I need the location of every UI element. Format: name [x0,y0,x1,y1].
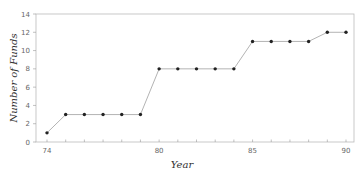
x-tick-label: 85 [248,147,257,155]
y-tick-label: 6 [26,84,31,92]
y-tick-label: 14 [21,11,30,19]
line-chart: 02468101214 74808590 Year Number of Fund… [0,0,364,175]
data-point-marker [251,40,254,43]
data-point-marker [344,31,347,34]
data-point-marker [288,40,291,43]
data-point-marker [101,113,104,116]
data-point-marker [213,67,216,70]
y-tick-label: 4 [26,102,31,110]
data-point-marker [83,113,86,116]
data-point-marker [270,40,273,43]
data-point-marker [326,31,329,34]
data-point-marker [64,113,67,116]
y-tick-label: 12 [21,29,30,37]
y-axis-title: Number of Funds [8,33,19,123]
data-point-marker [157,67,160,70]
y-tick-label: 10 [21,47,30,55]
y-tick-label: 8 [26,65,30,73]
y-tick-label: 0 [26,139,30,147]
data-point-marker [232,67,235,70]
data-point-marker [139,113,142,116]
x-axis-title: Year [171,159,195,170]
x-tick-label: 80 [155,147,164,155]
data-series [45,31,347,135]
series-line [47,32,346,133]
data-point-marker [307,40,310,43]
x-tick-label: 74 [43,147,52,155]
plot-frame [36,14,354,142]
data-point-marker [45,131,48,134]
x-tick-label: 90 [342,147,351,155]
data-point-marker [176,67,179,70]
data-point-marker [120,113,123,116]
y-axis-ticks: 02468101214 [21,11,36,147]
y-tick-label: 2 [26,120,30,128]
data-point-marker [195,67,198,70]
